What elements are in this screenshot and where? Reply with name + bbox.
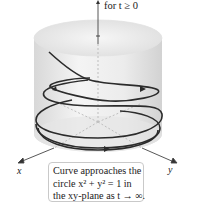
annotation-box: Curve approaches the circle x² + y² = 1 … bbox=[48, 162, 144, 202]
annotation-line-2: circle x² + y² = 1 in bbox=[53, 178, 143, 191]
annotation-line-3: the xy-plane as t → ∞. bbox=[53, 190, 143, 203]
y-axis-label: y bbox=[168, 165, 172, 175]
x-axis-label: x bbox=[17, 166, 21, 176]
annotation-line-1: Curve approaches the bbox=[53, 165, 143, 178]
top-caption: for t ≥ 0 bbox=[104, 1, 138, 12]
